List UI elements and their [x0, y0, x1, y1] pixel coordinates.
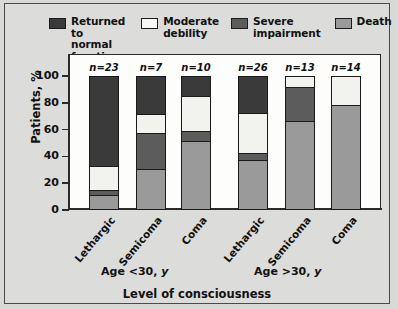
bar-segment-moderate-debility	[182, 97, 210, 132]
bar-n-label: n=13	[277, 62, 323, 73]
y-axis-tick	[62, 182, 69, 184]
bar-segment-moderate-debility	[90, 167, 118, 191]
bar-lethargic-3[interactable]	[238, 76, 268, 210]
bar-lethargic-0[interactable]	[89, 76, 119, 210]
bar-segment-returned-to-normal-function	[239, 77, 267, 114]
y-axis-tick-label: 0	[17, 203, 59, 216]
legend-item-death: Death	[335, 16, 392, 29]
legend-swatch-icon	[49, 18, 66, 29]
plot-area: n=23n=7n=10n=26n=13n=14	[69, 54, 381, 210]
bar-segment-death	[239, 161, 267, 209]
figure-frame: Returned to normal function Moderate deb…	[4, 3, 390, 304]
legend-item-moderate-debility: Moderate debility	[141, 16, 219, 39]
bar-segment-death	[90, 196, 118, 209]
y-axis-title: Patients, %	[29, 70, 43, 144]
legend-swatch-icon	[141, 18, 158, 29]
bar-segment-moderate-debility	[286, 77, 314, 88]
bar-segment-severe-impairment	[286, 88, 314, 122]
bar-segment-severe-impairment	[239, 154, 267, 161]
bar-segment-moderate-debility	[239, 114, 267, 154]
bar-coma-2[interactable]	[181, 76, 211, 210]
legend-item-label: Death	[357, 16, 392, 28]
y-axis-tick	[62, 102, 69, 104]
legend-swatch-icon	[231, 18, 248, 29]
y-axis-tick-label: 40	[17, 149, 59, 162]
y-axis-tick	[62, 156, 69, 158]
bar-segment-moderate-debility	[137, 115, 165, 134]
bar-semicoma-4[interactable]	[285, 76, 315, 210]
bar-segment-returned-to-normal-function	[182, 77, 210, 97]
bar-coma-5[interactable]	[331, 76, 361, 210]
bar-n-label: n=7	[128, 62, 174, 73]
legend-item-severe-impairment: Severe impairment	[231, 16, 320, 39]
bar-segment-severe-impairment	[137, 134, 165, 170]
bar-n-label: n=23	[81, 62, 127, 73]
bar-segment-death	[182, 142, 210, 209]
y-axis-tick	[62, 75, 69, 77]
bar-segment-death	[137, 170, 165, 209]
bar-segment-moderate-debility	[332, 77, 360, 106]
bar-n-label: n=26	[230, 62, 276, 73]
legend-item-label: Moderate debility	[163, 16, 219, 39]
bar-segment-severe-impairment	[182, 132, 210, 142]
bar-n-label: n=10	[173, 62, 219, 73]
bar-segment-returned-to-normal-function	[137, 77, 165, 115]
x-axis-title: Level of consciousness	[5, 287, 389, 301]
bar-semicoma-1[interactable]	[136, 76, 166, 210]
group-label-age-under-30: Age <30, y	[101, 265, 168, 278]
y-axis-tick	[62, 129, 69, 131]
legend-swatch-icon	[335, 18, 352, 29]
y-axis-tick	[62, 209, 69, 211]
chart-legend: Returned to normal function Moderate deb…	[41, 16, 381, 50]
bar-segment-returned-to-normal-function	[90, 77, 118, 167]
y-axis-tick-label: 20	[17, 176, 59, 189]
group-label-age-over-30: Age >30, y	[254, 265, 321, 278]
legend-item-label: Severe impairment	[253, 16, 320, 39]
bar-n-label: n=14	[323, 62, 369, 73]
bar-segment-death	[332, 106, 360, 210]
bar-segment-death	[286, 122, 314, 209]
